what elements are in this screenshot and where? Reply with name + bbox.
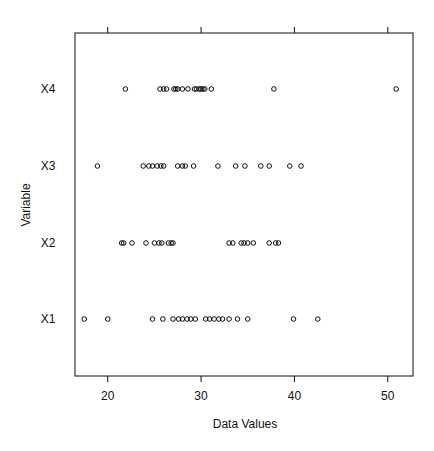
data-point: [141, 164, 146, 169]
data-point: [191, 164, 196, 169]
data-point: [150, 317, 155, 322]
data-point: [243, 164, 248, 169]
data-point: [316, 317, 321, 322]
data-point: [82, 317, 87, 322]
y-tick-label: X1: [41, 312, 56, 326]
data-point: [130, 241, 135, 246]
data-point: [291, 317, 296, 322]
x-tick-label: 50: [381, 389, 395, 403]
data-point: [186, 87, 191, 92]
data-point: [251, 241, 256, 246]
y-tick-label: X4: [41, 82, 56, 96]
x-axis-title: Data Values: [213, 417, 277, 431]
x-tick-label: 40: [288, 389, 302, 403]
y-axis-title: Variable: [19, 183, 33, 226]
data-point: [259, 164, 264, 169]
x-axis-top: [108, 27, 388, 33]
data-point: [171, 317, 176, 322]
data-point: [183, 164, 188, 169]
data-point: [245, 317, 250, 322]
data-point: [175, 164, 180, 169]
data-point: [216, 164, 221, 169]
data-points: [82, 87, 399, 322]
data-point: [394, 87, 399, 92]
data-point: [161, 164, 166, 169]
dot-plot-chart: 20304050 X1X2X3X4 Data Values Variable: [0, 0, 434, 451]
data-point: [212, 317, 217, 322]
data-point: [288, 164, 293, 169]
data-point: [233, 164, 238, 169]
data-point: [272, 87, 277, 92]
data-point: [105, 317, 110, 322]
data-point: [152, 241, 157, 246]
data-point: [144, 241, 149, 246]
data-point: [209, 87, 214, 92]
data-point: [161, 317, 166, 322]
data-point: [267, 241, 272, 246]
data-point: [227, 317, 232, 322]
data-point: [299, 164, 304, 169]
x-tick-label: 20: [101, 389, 115, 403]
data-point: [267, 164, 272, 169]
data-point: [123, 87, 128, 92]
x-tick-label: 30: [194, 389, 208, 403]
data-point: [180, 87, 185, 92]
data-point: [164, 87, 169, 92]
y-tick-label: X3: [41, 159, 56, 173]
data-point: [193, 317, 198, 322]
data-point: [95, 164, 100, 169]
y-tick-label: X2: [41, 236, 56, 250]
data-point: [235, 317, 240, 322]
y-axis-labels: X1X2X3X4: [41, 82, 56, 326]
plot-frame: [75, 33, 413, 376]
data-point: [160, 241, 165, 246]
x-axis-bottom: 20304050: [101, 376, 395, 403]
